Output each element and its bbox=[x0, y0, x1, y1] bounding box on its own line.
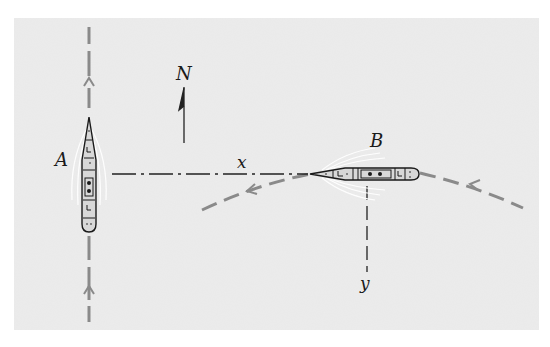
north-label: N bbox=[175, 63, 193, 84]
diagram-canvas: N A B x y bbox=[0, 0, 550, 347]
distance-y-label: y bbox=[359, 273, 370, 293]
distance-x-label: x bbox=[237, 152, 247, 172]
ship-b-label: B bbox=[369, 130, 383, 151]
ship-a-label: A bbox=[53, 149, 68, 170]
